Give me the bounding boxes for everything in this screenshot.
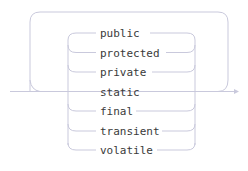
keyword-static: static [100,86,140,99]
arrow-end-icon [234,89,239,94]
keyword-final: final [100,105,133,118]
keyword-private: private [100,66,146,79]
keyword-protected: protected [100,47,160,60]
keyword-transient: transient [100,125,160,138]
railroad-diagram: public protected private static final tr… [0,0,248,171]
keyword-volatile: volatile [100,144,153,157]
keyword-public: public [100,27,140,40]
repeat-loop-entry [30,80,40,92]
